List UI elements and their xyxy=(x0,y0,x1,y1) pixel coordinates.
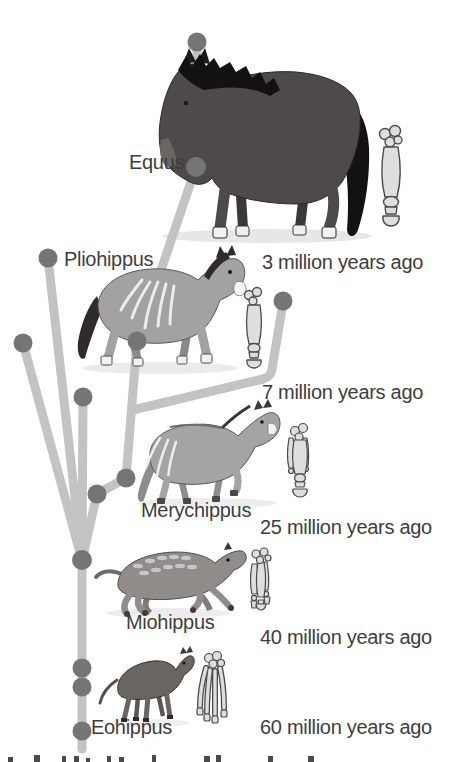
tree-node xyxy=(74,388,93,407)
label-eohippus: Eohippus xyxy=(91,717,172,737)
tree-node xyxy=(73,722,92,741)
tree-node xyxy=(188,33,207,52)
merychippus-leg-bone-illustration xyxy=(288,424,309,498)
miohippus-illustration xyxy=(96,542,246,617)
tree-node xyxy=(14,334,33,353)
label-time-25mya: 25 million years ago xyxy=(260,517,432,537)
tree-node xyxy=(88,485,107,504)
label-time-40mya: 40 million years ago xyxy=(260,627,432,647)
equus-illustration xyxy=(159,48,369,238)
tree-node xyxy=(117,469,136,488)
horse-evolution-figure: Equus Pliohippus Merychippus Miohippus E… xyxy=(0,0,453,762)
label-miohippus: Miohippus xyxy=(126,612,214,632)
equus-leg-bone-illustration xyxy=(380,126,403,227)
tree-node xyxy=(73,659,92,678)
tree-node xyxy=(39,249,58,268)
pliohippus-leg-bone-illustration xyxy=(245,288,262,369)
label-merychippus: Merychippus xyxy=(141,500,251,520)
tree-node xyxy=(186,157,206,177)
label-time-7mya: 7 million years ago xyxy=(262,382,423,402)
eohippus-leg-bone-illustration xyxy=(197,652,227,724)
tree-node xyxy=(274,292,293,311)
tree-node xyxy=(128,332,147,351)
eohippus-illustration xyxy=(100,646,194,722)
label-equus: Equus xyxy=(129,152,184,172)
branch-extinct-left xyxy=(48,258,82,560)
label-pliohippus: Pliohippus xyxy=(64,249,153,269)
miohippus-leg-bone-illustration xyxy=(251,548,272,610)
tree-node xyxy=(72,550,92,570)
merychippus-illustration xyxy=(138,399,280,504)
label-time-3mya: 3 million years ago xyxy=(262,252,423,272)
label-time-60mya: 60 million years ago xyxy=(260,717,432,737)
branch-extinct-short xyxy=(82,397,83,560)
branch-main-line xyxy=(82,341,137,560)
tree-node xyxy=(73,678,92,697)
